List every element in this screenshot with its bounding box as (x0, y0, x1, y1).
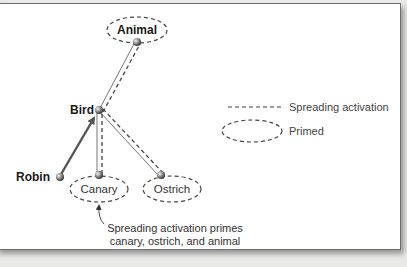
label-canary: Canary (80, 183, 117, 195)
node-robin (56, 173, 64, 181)
label-ostrich: Ostrich (154, 183, 190, 195)
caption-line-1: Spreading activation primes (107, 222, 243, 234)
legend-primed-label: Primed (289, 125, 324, 137)
caption-pointer-arrow (99, 206, 104, 224)
link-bird-ostrich (100, 112, 158, 175)
activation-bird-animal (103, 44, 140, 112)
label-bird: Bird (70, 103, 94, 117)
node-bird (95, 106, 103, 114)
semantic-network-diagram: Animal Bird Robin Canary Ostrich Spreadi… (0, 0, 407, 267)
node-ostrich (157, 171, 165, 179)
label-robin: Robin (16, 170, 50, 184)
label-animal: Animal (117, 23, 157, 37)
node-animal (133, 38, 141, 46)
activation-bird-ostrich (103, 109, 163, 173)
caption-line-2: canary, ostrich, and animal (110, 235, 241, 247)
link-bird-animal (99, 42, 135, 110)
legend-spreading-label: Spreading activation (289, 101, 389, 113)
legend-primed-ellipse (222, 120, 282, 142)
node-canary (95, 171, 103, 179)
link-robin-bird (60, 118, 94, 176)
